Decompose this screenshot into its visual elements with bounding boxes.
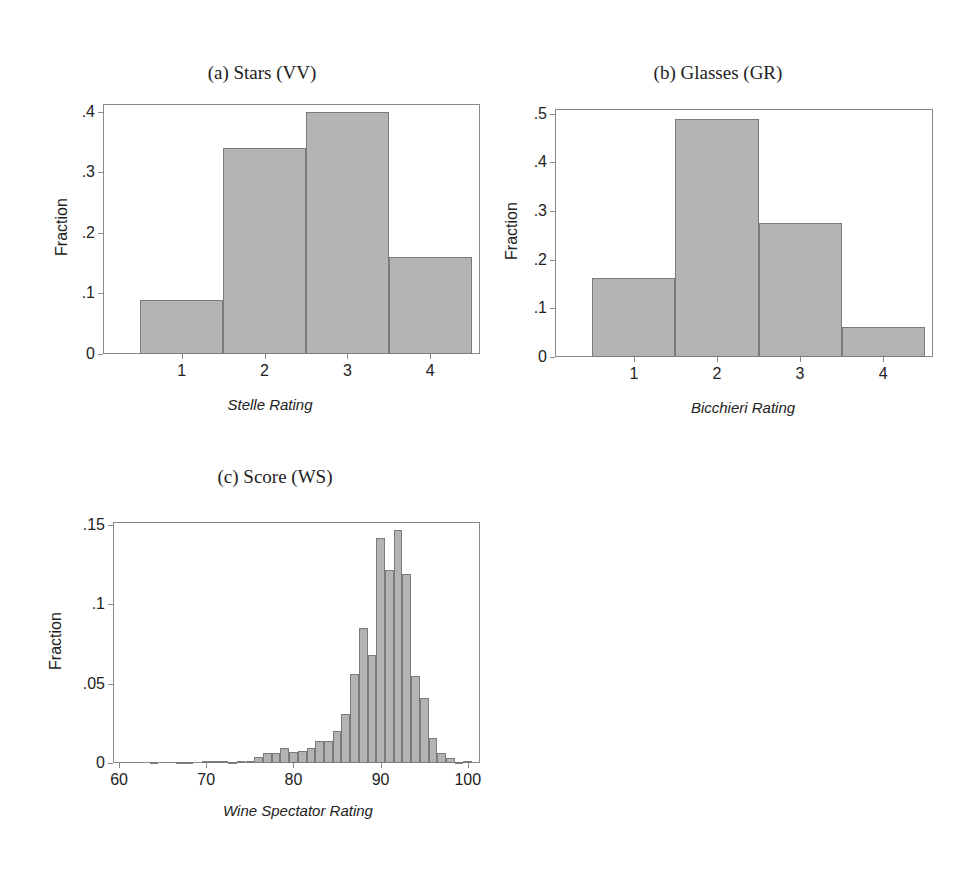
chart-title: (b) Glasses (GR) xyxy=(654,62,783,84)
y-tick xyxy=(98,293,103,294)
x-tick xyxy=(883,357,884,362)
y-tick-label: .2 xyxy=(55,224,95,242)
x-tick xyxy=(634,357,635,362)
x-tick-label: 2 xyxy=(713,365,722,383)
y-tick-label: .15 xyxy=(65,516,105,534)
histogram-bar xyxy=(184,762,193,764)
x-tick xyxy=(468,763,469,768)
histogram-bar xyxy=(150,762,159,764)
y-tick-label: .1 xyxy=(55,284,95,302)
y-tick xyxy=(98,172,103,173)
y-tick xyxy=(108,604,113,605)
y-tick-label: 0 xyxy=(65,754,105,772)
x-tick-label: 1 xyxy=(629,365,638,383)
histogram-bar xyxy=(389,257,472,354)
histogram-bar xyxy=(675,119,758,357)
x-tick xyxy=(717,357,718,362)
x-tick xyxy=(182,354,183,359)
histogram-bar xyxy=(402,574,411,763)
y-tick-label: .5 xyxy=(507,105,547,123)
y-tick xyxy=(550,211,555,212)
histogram-bar xyxy=(394,530,403,763)
chart-title: (a) Stars (VV) xyxy=(208,62,317,84)
x-tick-label: 4 xyxy=(879,365,888,383)
y-tick-label: .05 xyxy=(65,675,105,693)
histogram-bar xyxy=(385,570,394,763)
x-tick-label: 2 xyxy=(260,362,269,380)
histogram-bar xyxy=(306,112,389,354)
x-tick xyxy=(381,763,382,768)
histogram-bar xyxy=(350,674,359,763)
x-tick-label: 1 xyxy=(177,362,186,380)
histogram-bar xyxy=(223,148,306,354)
x-tick xyxy=(206,763,207,768)
x-tick xyxy=(293,763,294,768)
y-tick xyxy=(108,684,113,685)
x-axis-label: Stelle Rating xyxy=(227,396,312,413)
x-tick xyxy=(430,354,431,359)
histogram-bar xyxy=(237,761,246,763)
y-tick-label: .1 xyxy=(65,595,105,613)
histogram-bar xyxy=(246,761,255,763)
histogram-bar xyxy=(272,753,281,763)
x-tick xyxy=(265,354,266,359)
histogram-bar xyxy=(376,538,385,763)
histogram-bar xyxy=(359,628,368,763)
histogram-bar xyxy=(446,758,455,763)
x-tick-label: 90 xyxy=(372,771,390,789)
histogram-bar xyxy=(324,741,333,763)
histogram-bar xyxy=(420,698,429,763)
y-tick xyxy=(550,308,555,309)
histogram-bar xyxy=(280,748,289,763)
histogram-bar xyxy=(140,300,223,354)
histogram-bar xyxy=(289,752,298,763)
histogram-bar xyxy=(592,278,675,357)
y-tick-label: .1 xyxy=(507,299,547,317)
histogram-bar xyxy=(455,762,464,764)
y-tick xyxy=(108,525,113,526)
y-tick-label: .2 xyxy=(507,251,547,269)
x-axis-label: Wine Spectator Rating xyxy=(223,802,373,819)
y-tick xyxy=(550,114,555,115)
y-tick-label: .3 xyxy=(55,163,95,181)
y-tick xyxy=(98,354,103,355)
histogram-bar xyxy=(759,223,842,357)
y-tick-label: .4 xyxy=(55,103,95,121)
x-tick xyxy=(347,354,348,359)
histogram-bar xyxy=(307,748,316,763)
histogram-bar xyxy=(368,655,377,763)
x-tick-label: 80 xyxy=(285,771,303,789)
y-tick xyxy=(550,357,555,358)
histogram-bar xyxy=(298,751,307,763)
y-axis-label: Fraction xyxy=(47,611,65,671)
x-tick-label: 100 xyxy=(454,771,481,789)
chart-title: (c) Score (WS) xyxy=(217,466,332,488)
x-tick xyxy=(800,357,801,362)
y-tick xyxy=(550,162,555,163)
y-tick-label: .4 xyxy=(507,153,547,171)
y-tick xyxy=(98,112,103,113)
histogram-bar xyxy=(411,676,420,763)
y-tick xyxy=(108,763,113,764)
x-tick xyxy=(119,763,120,768)
y-tick-label: .3 xyxy=(507,202,547,220)
x-tick-label: 3 xyxy=(796,365,805,383)
histogram-bar xyxy=(263,753,272,763)
histogram-bar xyxy=(437,753,446,763)
histogram-bar xyxy=(315,741,324,763)
histogram-bar xyxy=(429,738,438,763)
histogram-bar xyxy=(842,327,925,357)
histogram-bar xyxy=(219,761,228,763)
x-tick-label: 60 xyxy=(110,771,128,789)
y-tick xyxy=(550,260,555,261)
histogram-bar xyxy=(254,757,263,763)
histogram-bar xyxy=(228,762,237,764)
histogram-bar xyxy=(333,731,342,763)
histogram-bar xyxy=(211,761,220,763)
x-tick-label: 4 xyxy=(426,362,435,380)
histogram-bar xyxy=(341,714,350,763)
y-tick-label: 0 xyxy=(55,345,95,363)
histogram-bar xyxy=(176,762,185,764)
y-tick-label: 0 xyxy=(507,348,547,366)
x-tick-label: 3 xyxy=(343,362,352,380)
